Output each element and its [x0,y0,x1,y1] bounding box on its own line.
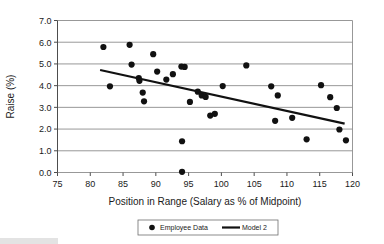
y-axis-title: Raise (%) [5,75,16,119]
x-tick-label: 100 [214,179,229,189]
y-tick-label: 1.0 [39,146,52,156]
legend-label-employee-data: Employee Data [160,224,208,232]
data-point [318,82,324,88]
data-point [107,83,113,89]
y-tick-label: 2.0 [39,124,52,134]
data-point [275,92,281,98]
data-point [182,64,188,70]
x-tick-label: 115 [313,179,327,189]
data-point [150,51,156,57]
data-point [343,137,349,143]
x-tick-label: 90 [151,179,161,189]
y-tick-label: 0.0 [39,168,52,178]
data-point [289,115,295,121]
data-point [203,94,209,100]
x-tick-label: 85 [118,179,128,189]
x-tick-label: 110 [280,179,294,189]
x-tick-label: 105 [247,179,262,189]
scatter-plot: 7580859095100105110115120 0.01.02.03.04.… [0,0,384,244]
data-point [212,111,218,117]
x-tick-label: 80 [85,179,95,189]
y-tick-label: 6.0 [39,38,52,48]
data-point [220,83,226,89]
y-tick-label: 4.0 [39,81,52,91]
y-tick-label: 7.0 [39,16,52,26]
x-axis-title: Position in Range (Salary as % of Midpoi… [109,196,302,207]
data-point [336,126,342,132]
data-point [163,76,169,82]
y-axis-ticks: 0.01.02.03.04.05.06.07.0 [39,16,58,178]
page-artifact [0,238,58,244]
chart-container: 7580859095100105110115120 0.01.02.03.04.… [0,0,384,244]
legend-marker-employee-data [149,225,155,231]
data-point [140,89,146,95]
x-tick-label: 75 [52,179,62,189]
y-tick-label: 5.0 [39,59,52,69]
data-point [179,169,185,175]
data-point [128,61,134,67]
data-point [179,138,185,144]
trend-line-layer [100,70,345,124]
chart-legend: Employee DataModel 2 [138,220,278,235]
data-point [100,44,106,50]
data-point [170,71,176,77]
data-point [334,105,340,111]
x-tick-label: 95 [184,179,194,189]
legend-label-model-2: Model 2 [242,224,267,231]
data-point [154,68,160,74]
data-point [127,42,133,48]
data-point [304,136,310,142]
x-axis-ticks: 7580859095100105110115120 [52,173,360,189]
data-points-layer [100,42,349,175]
x-tick-label: 120 [345,179,360,189]
data-point [268,83,274,89]
data-point [187,99,193,105]
data-point [272,118,278,124]
trend-line [100,70,345,124]
data-point [243,62,249,68]
data-point [327,94,333,100]
data-point [141,98,147,104]
y-tick-label: 3.0 [39,103,52,113]
